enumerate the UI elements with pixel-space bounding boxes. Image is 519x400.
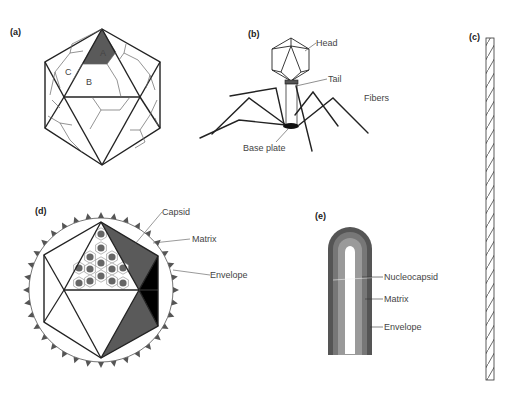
label-head: Head [316, 38, 338, 48]
panel-label-e: (e) [315, 211, 326, 221]
capsomer-dot [97, 244, 104, 251]
face-label-c: C [65, 67, 72, 77]
capsomer-dot [108, 253, 115, 260]
capsomer-dot [75, 279, 82, 286]
phage-tail [286, 84, 297, 125]
spike-icon [171, 300, 177, 306]
face-label-a: A [100, 48, 106, 58]
helical-rod [486, 38, 494, 380]
capsomer-dot [119, 279, 126, 286]
capsomer-dot [86, 277, 93, 284]
phage-collar [285, 80, 298, 84]
label-capsid: Capsid [162, 207, 190, 217]
capsomer-dot [108, 265, 115, 272]
phage-fibers [200, 86, 368, 151]
panel-label-c: (c) [469, 32, 480, 42]
label-base-plate: Base plate [243, 143, 286, 153]
phage-head [272, 38, 309, 81]
capsomer-dot [86, 265, 93, 272]
capsomer-dot [97, 259, 104, 266]
phage-base-plate [283, 123, 299, 129]
capsomer-dot [108, 277, 115, 284]
panel-b-bacteriophage: (b) Head Tai [200, 29, 390, 153]
spike-icon [171, 275, 177, 281]
panel-label-b: (b) [248, 29, 260, 39]
spike-icon [173, 287, 179, 293]
capsomer-dot [97, 272, 104, 279]
label-fibers: Fibers [364, 93, 390, 103]
label-envelope-d: Envelope [210, 270, 248, 280]
panel-c-helical-rod: (c) [469, 32, 494, 380]
panel-a-icosahedron: (a) [10, 27, 160, 165]
label-nucleocapsid: Nucleocapsid [384, 272, 438, 282]
core [345, 246, 355, 354]
label-envelope-e: Envelope [384, 322, 422, 332]
spike-icon [23, 287, 29, 293]
spike-icon [98, 212, 104, 218]
spike-icon [86, 213, 92, 219]
spike-icon [98, 362, 104, 368]
capsomer-dot [86, 253, 93, 260]
label-matrix-e: Matrix [384, 294, 409, 304]
spike-icon [86, 360, 92, 366]
panel-label-d: (d) [35, 206, 47, 216]
panel-label-a: (a) [10, 27, 21, 37]
panel-d-enveloped-icosahedral: (d) Capsid Matrix [23, 206, 248, 368]
label-tail: Tail [328, 74, 342, 84]
panel-e-enveloped-helical: (e) Nucleocapsid Matrix Envelope [315, 211, 438, 355]
spike-icon [111, 360, 117, 366]
virus-structures-figure: (a) [0, 0, 519, 400]
spike-icon [111, 213, 117, 219]
spike-icon [24, 300, 30, 306]
capsomer-dot [97, 230, 104, 237]
face-label-b: B [86, 77, 92, 87]
spike-icon [24, 275, 30, 281]
label-matrix-d: Matrix [192, 234, 217, 244]
